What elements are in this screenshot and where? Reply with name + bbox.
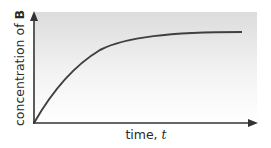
x-axis-label: time, t — [125, 127, 167, 142]
rate-diagram: concentration of B time, t — [0, 0, 271, 148]
plot-background — [35, 12, 257, 123]
y-axis-label: concentration of B — [12, 10, 27, 126]
